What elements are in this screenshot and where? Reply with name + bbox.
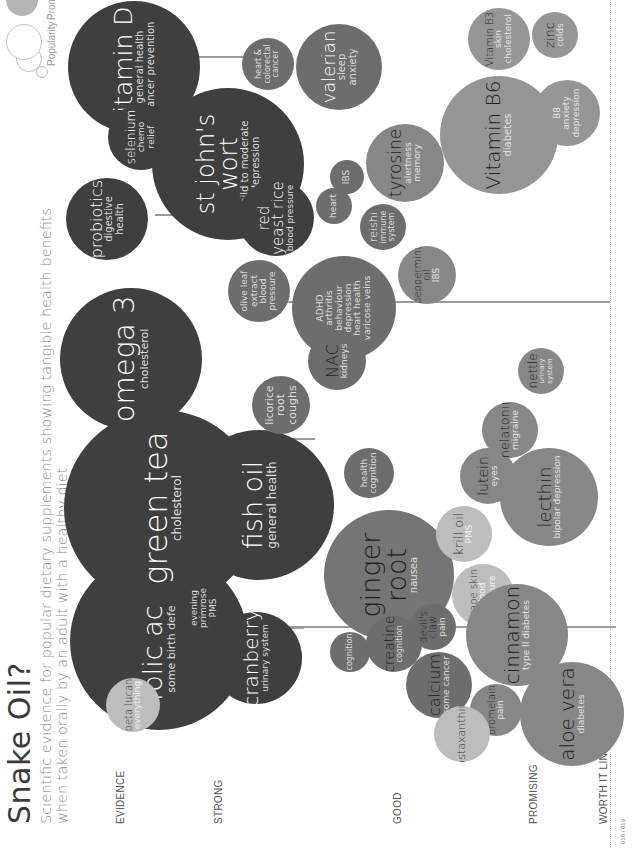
bubble-lecthin[interactable]: lecthin bipolar depression xyxy=(500,448,598,546)
axis-label-promising: PROMISING xyxy=(528,764,539,824)
legend-large-ring-icon xyxy=(6,24,42,60)
bubble-omega-3[interactable]: omega 3 cholesterol xyxy=(60,288,202,430)
bubble-probiotics[interactable]: probiotics digestive health xyxy=(66,178,148,260)
bubble-health-cognition[interactable]: health cognition xyxy=(344,448,394,498)
bubble-benefit: evening primrose PMS xyxy=(190,588,218,628)
bubble-name: omega 3 xyxy=(111,296,139,423)
bubble-benefit: nausea xyxy=(409,557,420,593)
bubble-benefit: olive leaf extract blood pressure xyxy=(240,271,278,312)
bubble-melatonin[interactable]: melatonin migraine xyxy=(482,402,538,458)
subtitle-line-1: Scientific evidence for popular dietary … xyxy=(38,208,54,824)
bubble-benefit: everything xyxy=(133,681,142,730)
bubble-beta-lucan[interactable]: beta lucan everything xyxy=(106,678,160,732)
bubble-name: st john's wort xyxy=(195,88,241,240)
bubble-benefit: health cognition xyxy=(360,452,379,494)
bubble-benefit: immune system xyxy=(380,211,397,244)
bubble-benefit: some cancer xyxy=(442,656,451,714)
bubble-red-yeast-rice[interactable]: red yeast rice blood pressure xyxy=(238,180,314,256)
bubble-nac[interactable]: NAC kidneys xyxy=(308,332,366,390)
bubble-benefit: alertness memory xyxy=(404,142,423,183)
bubble-name: probiotics xyxy=(89,180,104,258)
bubble-name: lutein xyxy=(477,456,490,496)
bubble-b8[interactable]: B8 anxiety depression xyxy=(534,80,600,146)
bubble-vitamin-b3[interactable]: Vitamin B3 skin cholesterol xyxy=(468,8,530,70)
bubble-benefit: migraine xyxy=(511,410,520,450)
bubble-benefit: sleep anxiety xyxy=(337,48,358,85)
bubble-benefit: general health cancer prevention xyxy=(135,22,156,113)
bubble-benefit: heart xyxy=(329,194,338,218)
bubble-benefit: bipolar depression xyxy=(553,455,562,538)
bubble-benefit: ADHD arthritis behaviour depression hear… xyxy=(316,276,373,340)
bubble-benefit: digestive health xyxy=(104,196,125,242)
bubble-benefit: urinary system xyxy=(261,624,270,692)
bubble-benefit: cholesterol xyxy=(139,329,151,389)
bubble-benefit: cognition xyxy=(346,634,354,671)
bubble-zinc[interactable]: zinc colds xyxy=(532,12,578,58)
bubble-aloe-vera[interactable]: aloe vera diabetes xyxy=(520,662,624,766)
bubble-peppermint-oil[interactable]: peppermint oil IBS xyxy=(398,246,456,304)
bubble-name: calcium xyxy=(427,654,442,716)
bubble-benefit: type II diabetes xyxy=(522,600,531,670)
bubble-valerian[interactable]: valerian sleep anxiety xyxy=(296,24,382,110)
bubble-benefit: cognition xyxy=(396,626,404,663)
bubble-cranberry[interactable]: cranberry urinary system xyxy=(210,612,302,704)
bubble-benefit: IBS xyxy=(432,268,441,282)
bubble-heart-colorectal[interactable]: heart & colorectal cancer xyxy=(242,38,294,90)
bubble-name: peppermint oil xyxy=(413,246,432,304)
bubble-reishi[interactable]: reishi immune system xyxy=(360,204,406,250)
bubble-benefit: B8 anxiety depression xyxy=(553,88,581,137)
bubble-benefit: skin cholesterol xyxy=(494,14,513,63)
bubble-krill-oil[interactable]: krill oil PMS xyxy=(436,506,492,562)
bubble-fish-oil[interactable]: fish oil general health xyxy=(184,430,334,580)
bubble-benefit: PMS xyxy=(465,525,474,544)
axis-label-strong: STRONG xyxy=(213,779,224,824)
bubble-name: red yeast rice xyxy=(257,181,286,255)
bubble-benefit: pain xyxy=(496,700,505,719)
bubble-name: creatine xyxy=(383,616,396,672)
bubble-name: NAC xyxy=(325,344,340,378)
bubble-name: ginger root xyxy=(358,533,409,618)
bubble-benefit: general health xyxy=(266,461,279,548)
bubble-devils-claw[interactable]: devil's claw pain xyxy=(410,604,456,650)
bubble-name: Vitamin B6 xyxy=(484,81,503,190)
legend-promising-swatch-icon xyxy=(6,0,38,16)
bubble-name: devil's claw xyxy=(419,604,438,650)
bubble-ibs[interactable]: IBS xyxy=(330,160,364,194)
bubble-benefit: IBS xyxy=(342,170,351,184)
bubble-name: lecthin xyxy=(536,467,553,528)
bubble-name: astaxanthin xyxy=(457,706,467,762)
chart-canvas: 018 / 019 Snake Oil? Scientific evidence… xyxy=(0,0,634,848)
bubble-olive-leaf[interactable]: olive leaf extract blood pressure xyxy=(228,260,290,322)
bubble-name: tyrosine xyxy=(387,129,403,198)
bubble-benefit: diabetes xyxy=(577,695,586,734)
chart-title: Snake Oil? xyxy=(2,662,37,824)
legend-popularity-label: Popularity xyxy=(46,22,57,66)
bubble-licorice-root[interactable]: licorice root coughs xyxy=(252,376,310,434)
bubble-benefit: cholesterol xyxy=(171,475,184,541)
bubble-cognition[interactable]: cognition xyxy=(330,632,370,672)
bubble-benefit: diabetes xyxy=(503,113,514,156)
bubble-name: fish oil xyxy=(240,461,266,549)
bubble-benefit: pain xyxy=(438,617,447,636)
bubble-benefit: licorice root coughs xyxy=(264,385,299,424)
bubble-astaxanthin[interactable]: astaxanthin xyxy=(434,706,490,762)
legend-promising-label: Promising xyxy=(46,0,57,20)
page-number: 018 / 019 xyxy=(620,819,626,844)
bubble-benefit: urinary system xyxy=(539,358,554,383)
bubble-tyrosine[interactable]: tyrosine alertness memory xyxy=(366,124,444,202)
bubble-nettle[interactable]: nettle urinary system xyxy=(518,348,564,394)
bubble-benefit: eyes xyxy=(490,465,499,486)
bubble-name: cinnamon xyxy=(503,586,522,685)
bubble-name: cranberry xyxy=(242,612,261,704)
axis-label-good: GOOD xyxy=(392,792,403,824)
bubble-name: green tea xyxy=(141,431,171,584)
bubble-name: aloe vera xyxy=(558,667,577,760)
bubble-name: valerian xyxy=(320,31,337,104)
bubble-benefit: colds xyxy=(556,23,565,46)
bubble-benefit: kidneys xyxy=(340,344,349,379)
axis-label-evidence: EVIDENCE xyxy=(115,770,126,824)
bubble-benefit: blood pressure xyxy=(286,185,295,252)
bubble-benefit: heart & colorectal cancer xyxy=(255,44,280,83)
